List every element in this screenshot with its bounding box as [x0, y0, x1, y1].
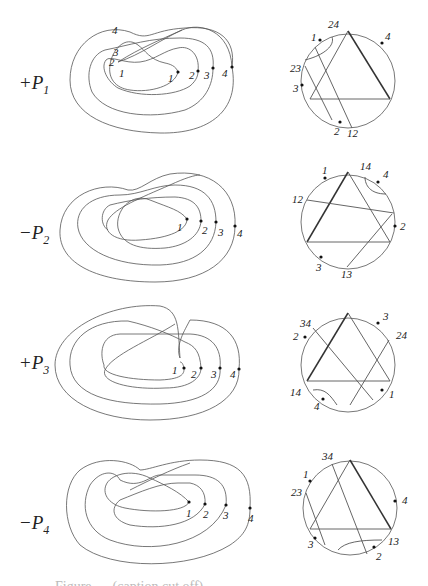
svg-text:4: 4	[385, 30, 391, 42]
svg-text:3: 3	[315, 261, 322, 273]
svg-text:13: 13	[388, 535, 400, 547]
svg-text:14: 14	[290, 386, 302, 398]
svg-text:24: 24	[328, 18, 340, 30]
svg-text:2: 2	[293, 330, 299, 342]
svg-text:1: 1	[389, 388, 395, 400]
svg-text:34: 34	[299, 317, 312, 329]
chord-diagram-p4: 34 1 23 4 3 13 2	[0, 430, 428, 570]
svg-text:24: 24	[396, 329, 408, 341]
row-p1: +P1 4 3 2 1 1 2 3 4 24	[0, 0, 428, 145]
svg-text:4: 4	[402, 494, 408, 506]
svg-text:3: 3	[307, 538, 314, 550]
svg-text:2: 2	[400, 220, 406, 232]
svg-text:14: 14	[360, 160, 372, 172]
svg-text:1: 1	[311, 31, 317, 43]
svg-text:23: 23	[290, 62, 302, 74]
row-p3: +P3 1 2 3 4 34 3 2 24 14 1 4	[0, 290, 428, 430]
svg-text:3: 3	[292, 82, 299, 94]
svg-text:23: 23	[291, 486, 303, 498]
chord-diagram-p3: 34 3 2 24 14 1 4	[0, 290, 428, 430]
row-p4: −P4 1 2 3 4 34 1 23 4 3 13 2	[0, 430, 428, 570]
chord-diagram-p1: 24 4 1 23 3 2 12	[0, 0, 428, 145]
chord-diagram-p2: 1 14 4 12 2 3 13	[0, 150, 428, 290]
svg-text:1: 1	[303, 468, 309, 480]
svg-text:12: 12	[347, 127, 359, 139]
svg-text:3: 3	[382, 310, 389, 322]
svg-text:12: 12	[292, 193, 304, 205]
svg-text:2: 2	[334, 125, 340, 137]
svg-text:4: 4	[314, 400, 320, 412]
svg-text:34: 34	[321, 450, 334, 462]
svg-text:4: 4	[383, 168, 389, 180]
row-p2: −P2 1 2 3 4 1 14 4 12 2 3 13	[0, 150, 428, 290]
svg-text:1: 1	[322, 164, 328, 176]
figure-caption: Figure … (caption cut off)	[55, 580, 385, 586]
svg-text:2: 2	[376, 550, 382, 562]
svg-text:13: 13	[341, 268, 353, 280]
